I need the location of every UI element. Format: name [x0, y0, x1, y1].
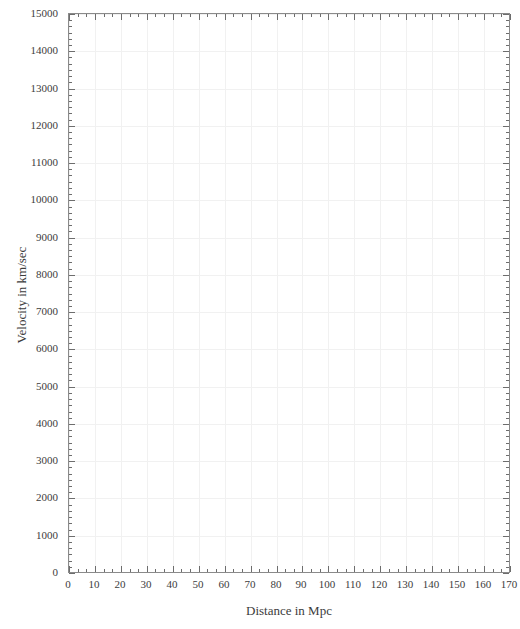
x-tick-minor — [285, 569, 286, 572]
y-tick-label: 7000 — [36, 305, 58, 317]
x-tick-major-top — [432, 14, 433, 20]
x-tick-label: 0 — [65, 578, 71, 590]
x-tick-major — [432, 566, 433, 572]
x-tick-major-top — [302, 14, 303, 20]
x-tick-minor — [337, 569, 338, 572]
x-tick-minor — [415, 569, 416, 572]
y-tick-minor-right — [506, 554, 509, 555]
gridline-horizontal — [69, 51, 509, 52]
y-tick-minor — [69, 175, 72, 176]
y-tick-minor — [69, 492, 72, 493]
y-tick-minor — [69, 33, 72, 34]
y-tick-major-right — [503, 573, 509, 574]
y-tick-minor — [69, 120, 72, 121]
y-tick-minor-right — [506, 436, 509, 437]
y-tick-minor-right — [506, 70, 509, 71]
y-tick-major — [69, 498, 75, 499]
y-tick-minor-right — [506, 20, 509, 21]
y-tick-minor-right — [506, 207, 509, 208]
gridlines — [69, 14, 509, 572]
y-tick-major — [69, 536, 75, 537]
y-tick-minor-right — [506, 144, 509, 145]
x-tick-label: 40 — [167, 578, 178, 590]
y-tick-minor — [69, 567, 72, 568]
x-tick-minor-top — [268, 14, 269, 17]
x-tick-major-top — [406, 14, 407, 20]
x-tick-minor — [190, 569, 191, 572]
x-tick-minor — [78, 569, 79, 572]
y-tick-minor — [69, 95, 72, 96]
gridline-vertical — [458, 14, 459, 572]
y-tick-label: 9000 — [36, 231, 58, 243]
y-tick-minor-right — [506, 300, 509, 301]
gridline-horizontal — [69, 424, 509, 425]
gridline-vertical — [484, 14, 485, 572]
y-tick-minor — [69, 455, 72, 456]
x-tick-minor — [268, 569, 269, 572]
y-tick-label: 1000 — [36, 529, 58, 541]
gridline-vertical — [69, 14, 70, 572]
y-tick-minor-right — [506, 418, 509, 419]
x-tick-minor-top — [138, 14, 139, 17]
y-tick-minor-right — [506, 511, 509, 512]
y-tick-minor — [69, 194, 72, 195]
gridline-vertical — [225, 14, 226, 572]
y-tick-minor — [69, 337, 72, 338]
gridline-vertical — [432, 14, 433, 572]
gridline-horizontal — [69, 126, 509, 127]
y-tick-minor-right — [506, 337, 509, 338]
y-tick-minor-right — [506, 343, 509, 344]
x-tick-minor-top — [216, 14, 217, 17]
y-tick-minor — [69, 213, 72, 214]
y-tick-minor-right — [506, 430, 509, 431]
y-tick-minor-right — [506, 132, 509, 133]
y-tick-minor — [69, 542, 72, 543]
x-tick-minor — [372, 569, 373, 572]
y-tick-minor — [69, 399, 72, 400]
y-tick-major-right — [503, 163, 509, 164]
x-tick-major — [147, 566, 148, 572]
x-tick-minor-top — [311, 14, 312, 17]
y-tick-major-right — [503, 349, 509, 350]
gridline-horizontal — [69, 536, 509, 537]
y-tick-minor — [69, 57, 72, 58]
y-tick-minor-right — [506, 443, 509, 444]
x-tick-minor-top — [285, 14, 286, 17]
y-tick-minor-right — [506, 175, 509, 176]
x-tick-major — [302, 566, 303, 572]
gridline-horizontal — [69, 498, 509, 499]
y-tick-label: 6000 — [36, 342, 58, 354]
y-tick-minor — [69, 480, 72, 481]
x-tick-major — [121, 566, 122, 572]
y-tick-minor — [69, 26, 72, 27]
y-tick-minor — [69, 412, 72, 413]
x-tick-major — [277, 566, 278, 572]
y-tick-minor — [69, 76, 72, 77]
x-tick-major-top — [95, 14, 96, 20]
gridline-horizontal — [69, 275, 509, 276]
x-tick-minor-top — [475, 14, 476, 17]
y-tick-minor — [69, 250, 72, 251]
y-tick-label: 4000 — [36, 417, 58, 429]
x-tick-major — [406, 566, 407, 572]
x-tick-major — [173, 566, 174, 572]
y-tick-major-right — [503, 14, 509, 15]
y-tick-label: 14000 — [31, 44, 59, 56]
y-tick-minor — [69, 380, 72, 381]
x-tick-minor-top — [346, 14, 347, 17]
x-tick-major-top — [277, 14, 278, 20]
gridline-horizontal — [69, 14, 509, 15]
y-tick-label: 8000 — [36, 268, 58, 280]
y-tick-minor-right — [506, 76, 509, 77]
x-tick-minor-top — [164, 14, 165, 17]
x-tick-minor-top — [424, 14, 425, 17]
y-tick-major — [69, 573, 75, 574]
y-tick-minor — [69, 287, 72, 288]
y-tick-minor — [69, 219, 72, 220]
y-tick-minor-right — [506, 449, 509, 450]
y-tick-label: 15000 — [31, 7, 59, 19]
y-tick-minor — [69, 325, 72, 326]
x-tick-major — [380, 566, 381, 572]
x-tick-minor-top — [441, 14, 442, 17]
y-tick-minor-right — [506, 405, 509, 406]
